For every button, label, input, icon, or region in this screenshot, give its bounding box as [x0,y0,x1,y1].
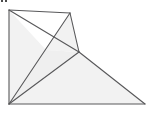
corner-marks-group [0,0,8,4]
corner-mark-2-dot [5,0,7,2]
edge-top-left-to-peak [9,10,70,13]
corner-mark-1-dot [1,0,3,2]
polygon-figure [0,0,154,121]
polygon-faces [9,10,145,104]
figure-canvas [0,0,154,121]
